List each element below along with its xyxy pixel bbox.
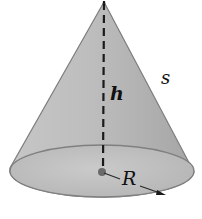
base-center-dot <box>98 168 106 176</box>
slant-height-label: s <box>161 69 170 87</box>
radius-label: R <box>122 169 136 188</box>
cone-drawing <box>0 0 202 219</box>
cone-diagram: h s R <box>0 0 202 219</box>
height-label: h <box>110 84 124 103</box>
